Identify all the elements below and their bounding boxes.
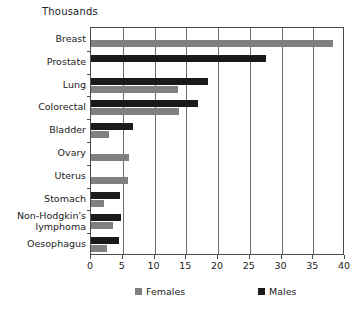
legend-swatch-icon [135, 288, 142, 295]
plot-area [90, 27, 344, 255]
x-axis-tick-label: 30 [274, 260, 286, 271]
chart-title: Thousands [42, 6, 98, 17]
legend-label: Males [269, 286, 296, 297]
bar-females [91, 245, 107, 252]
gridline [123, 28, 124, 254]
bar-males [91, 237, 119, 244]
x-axis-tick-label: 40 [338, 260, 350, 271]
category-tick [87, 142, 91, 143]
x-axis-tick [185, 255, 186, 259]
category-tick [87, 165, 91, 166]
category-label: Uterus [0, 170, 86, 181]
category-label: Non-Hodgkin's lymphoma [0, 210, 86, 232]
bar-males [91, 214, 121, 221]
category-tick [87, 233, 91, 234]
legend-item-females[interactable]: Females [135, 286, 185, 297]
category-label: Colorectal [0, 101, 86, 112]
bar-females [91, 154, 129, 161]
bar-males [91, 123, 133, 130]
chart-legend: FemalesMales [0, 286, 362, 302]
gridline [250, 28, 251, 254]
category-label: Ovary [0, 147, 86, 158]
bar-females [91, 177, 128, 184]
x-axis-tick-label: 15 [179, 260, 191, 271]
category-label: Bladder [0, 124, 86, 135]
category-axis-labels: BreastProstateLungColorectalBladderOvary… [0, 27, 86, 255]
gridline [313, 28, 314, 254]
category-label: Oesophagus [0, 238, 86, 249]
x-axis-tick [344, 255, 345, 259]
bar-females [91, 86, 178, 93]
category-label: Prostate [0, 56, 86, 67]
gridline [155, 28, 156, 254]
x-axis-tick [122, 255, 123, 259]
bar-chart: Thousands BreastProstateLungColorectalBl… [0, 0, 362, 312]
category-tick [87, 51, 91, 52]
category-tick [87, 188, 91, 189]
legend-item-males[interactable]: Males [258, 286, 296, 297]
bar-females [91, 200, 104, 207]
category-tick [87, 74, 91, 75]
x-axis-tick-labels: 0510152025303540 [0, 260, 362, 274]
category-tick [87, 210, 91, 211]
x-axis-tick [312, 255, 313, 259]
category-tick [87, 96, 91, 97]
gridline [218, 28, 219, 254]
category-label: Stomach [0, 193, 86, 204]
bar-males [91, 78, 208, 85]
bar-males [91, 192, 120, 199]
x-axis-tick [217, 255, 218, 259]
bar-males [91, 55, 266, 62]
legend-swatch-icon [258, 288, 265, 295]
x-axis-tick-label: 5 [119, 260, 125, 271]
category-label: Lung [0, 79, 86, 90]
bar-females [91, 222, 113, 229]
x-axis-tick-label: 0 [87, 260, 93, 271]
x-axis-tick-label: 35 [306, 260, 318, 271]
x-axis-tick [90, 255, 91, 259]
bar-females [91, 108, 179, 115]
x-axis-tick-label: 25 [243, 260, 255, 271]
gridline [186, 28, 187, 254]
bar-females [91, 131, 109, 138]
x-axis-tick [281, 255, 282, 259]
x-axis-tick [249, 255, 250, 259]
bar-males [91, 100, 198, 107]
x-axis-tick-label: 10 [147, 260, 159, 271]
category-label: Breast [0, 33, 86, 44]
category-tick [87, 119, 91, 120]
legend-label: Females [146, 286, 185, 297]
x-axis-tick-label: 20 [211, 260, 223, 271]
gridline [282, 28, 283, 254]
bar-females [91, 40, 333, 47]
x-axis-tick [154, 255, 155, 259]
